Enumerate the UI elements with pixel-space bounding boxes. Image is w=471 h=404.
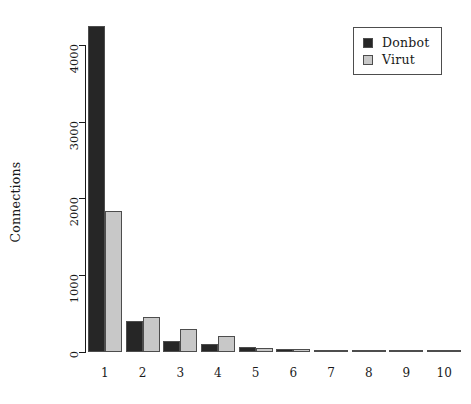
legend-swatch-virut [363, 55, 373, 65]
bar-donbot-4 [201, 344, 218, 352]
x-tick-label-3: 3 [176, 366, 184, 380]
legend-label-virut: Virut [382, 52, 415, 67]
legend-swatch-donbot [363, 38, 373, 48]
x-tick-label-10: 10 [437, 366, 452, 380]
bar-group [201, 14, 235, 352]
bar-virut-3 [180, 329, 197, 352]
x-tick-label-5: 5 [252, 366, 260, 380]
y-tick-label: 2000 [67, 197, 81, 226]
bar-virut-2 [143, 317, 160, 352]
bar-virut-1 [105, 211, 122, 352]
chart-legend: DonbotVirut [353, 27, 442, 75]
x-tick-label-1: 1 [101, 366, 109, 380]
x-tick-label-7: 7 [327, 366, 335, 380]
bar-group [314, 14, 348, 352]
x-tick-label-8: 8 [365, 366, 373, 380]
x-tick-label-9: 9 [403, 366, 411, 380]
x-tick-label-2: 2 [139, 366, 147, 380]
bar-chart: Connections 01000200030004000 1234567891… [0, 0, 471, 404]
bar-group [126, 14, 160, 352]
bar-donbot-2 [126, 321, 143, 352]
y-tick-label: 0 [67, 351, 81, 358]
legend-item-virut: Virut [363, 51, 429, 68]
y-tick-label: 1000 [67, 274, 81, 303]
x-axis: 12345678910 [86, 352, 463, 404]
bar-group [276, 14, 310, 352]
bar-group [88, 14, 122, 352]
y-tick-label: 3000 [67, 121, 81, 150]
bar-group [163, 14, 197, 352]
y-axis: 01000200030004000 [0, 0, 90, 404]
legend-item-donbot: Donbot [363, 34, 429, 51]
x-tick-label-6: 6 [290, 366, 298, 380]
bar-group [239, 14, 273, 352]
y-tick-label: 4000 [67, 44, 81, 73]
bar-virut-4 [218, 336, 235, 352]
legend-label-donbot: Donbot [382, 35, 429, 50]
bar-donbot-3 [163, 341, 180, 352]
bar-donbot-1 [88, 26, 105, 352]
x-tick-label-4: 4 [214, 366, 222, 380]
